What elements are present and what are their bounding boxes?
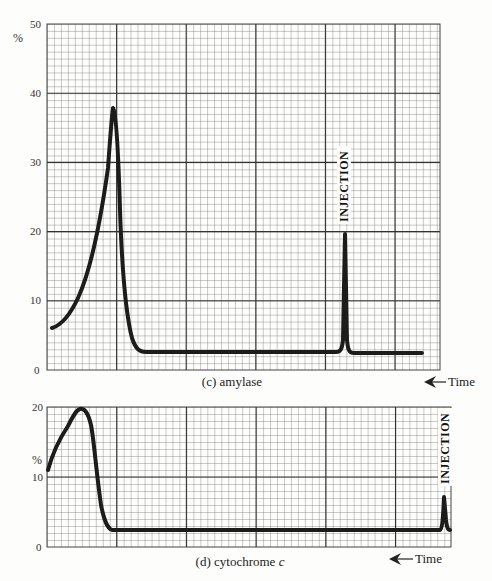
cytochrome-time-label: Time [415, 551, 442, 566]
ytick-0: 0 [36, 541, 42, 553]
cytochrome-injection-label: INJECTION [438, 408, 452, 486]
amylase-caption: (c) amylase [202, 374, 263, 389]
y-unit-label: % [32, 453, 42, 467]
svg-text:INJECTION: INJECTION [337, 151, 351, 222]
cytochrome-chart: 20 % 10 0 INJECTION (d) cytochrome c Tim… [32, 401, 452, 569]
time-arrow-icon [424, 376, 446, 388]
ytick-50: 50 [30, 18, 42, 30]
ytick-40: 40 [30, 87, 42, 99]
ytick-20: 20 [32, 401, 44, 413]
ytick-30: 30 [30, 156, 42, 168]
amylase-injection-label: INJECTION [337, 146, 351, 224]
ytick-10: 10 [30, 294, 42, 306]
svg-text:INJECTION: INJECTION [438, 413, 452, 484]
amylase-time-label: Time [448, 374, 475, 389]
ytick-10: 10 [32, 471, 44, 483]
ytick-0: 0 [34, 364, 40, 376]
amylase-chart: 50 % 40 30 20 10 0 INJECTION (c) amylase… [13, 18, 475, 389]
amylase-grid [47, 24, 440, 370]
y-unit-label: % [13, 31, 23, 45]
chart-canvas: 50 % 40 30 20 10 0 INJECTION (c) amylase… [0, 0, 492, 581]
time-arrow-icon [389, 553, 413, 565]
cytochrome-caption: (d) cytochrome c [196, 554, 285, 569]
ytick-20: 20 [30, 225, 42, 237]
